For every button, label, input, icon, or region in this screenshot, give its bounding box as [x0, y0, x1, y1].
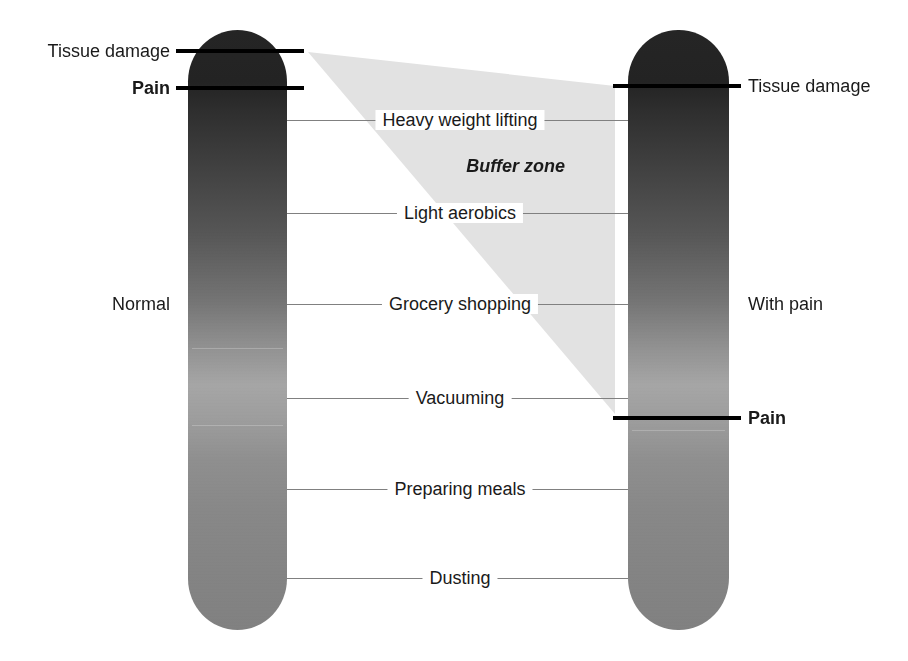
activity-label-light-aerobics: Light aerobics [397, 203, 523, 223]
normal-bar [188, 30, 287, 630]
bar-seam [192, 348, 283, 349]
buffer-zone-label: Buffer zone [466, 156, 565, 176]
tissue-damage-label-right: Tissue damage [748, 76, 870, 96]
tissue-damage-label-left: Tissue damage [48, 41, 170, 61]
column-caption-with-pain: With pain [748, 294, 823, 314]
pain-rule-right [613, 416, 741, 420]
activity-label-preparing-meals: Preparing meals [387, 479, 532, 499]
pain-label-right: Pain [748, 408, 786, 428]
bar-seam [192, 425, 283, 426]
bar-seam [632, 430, 725, 431]
pain-label-left: Pain [132, 78, 170, 98]
activity-label-dusting: Dusting [422, 568, 497, 588]
activity-label-vacuuming: Vacuuming [409, 388, 512, 408]
buffer-zone-shape [0, 0, 908, 661]
column-caption-normal: Normal [112, 294, 170, 314]
activity-label-heavy-weight-lifting: Heavy weight lifting [375, 110, 544, 130]
activity-label-grocery-shopping: Grocery shopping [382, 294, 538, 314]
tissue-damage-rule-left [176, 49, 304, 53]
pain-rule-left [176, 86, 304, 90]
tissue-damage-rule-right [613, 84, 741, 88]
with-pain-bar [628, 30, 729, 630]
diagram-canvas: Tissue damage Pain Tissue damage Pain No… [0, 0, 908, 661]
